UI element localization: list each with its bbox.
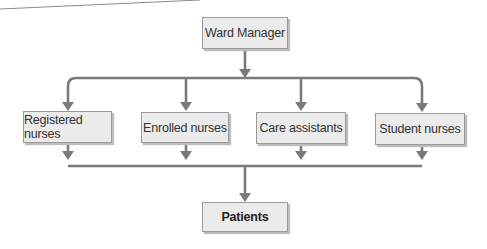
registered-nurses-label: Registered nurses: [24, 113, 111, 141]
care-assistants-box: Care assistants: [256, 112, 346, 144]
enrolled-nurses-box: Enrolled nurses: [141, 112, 229, 143]
ward-manager-box: Ward Manager: [202, 17, 288, 49]
ward-manager-label: Ward Manager: [205, 26, 285, 40]
patients-label: Patients: [221, 210, 268, 224]
enrolled-nurses-label: Enrolled nurses: [143, 121, 227, 135]
student-nurses-label: Student nurses: [379, 122, 460, 136]
care-assistants-label: Care assistants: [259, 121, 342, 135]
patients-box: Patients: [202, 202, 288, 232]
student-nurses-box: Student nurses: [375, 113, 465, 145]
registered-nurses-box: Registered nurses: [23, 111, 112, 143]
